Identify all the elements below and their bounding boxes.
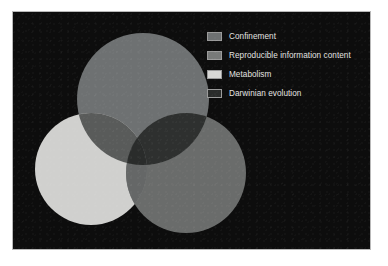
legend-swatch-confinement	[207, 32, 222, 41]
figure-panel: Confinement Reproducible information con…	[12, 11, 371, 250]
legend-item-confinement: Confinement	[207, 27, 371, 46]
legend-label-metabolism: Metabolism	[229, 70, 271, 79]
legend-label-confinement: Confinement	[229, 32, 276, 41]
legend-item-metabolism: Metabolism	[207, 65, 371, 84]
legend-swatch-reproducible-information-content	[207, 51, 222, 60]
legend-swatch-darwinian-evolution	[207, 89, 222, 98]
venn-diagram-figure: Confinement Reproducible information con…	[0, 0, 388, 266]
legend: Confinement Reproducible information con…	[207, 27, 371, 103]
legend-swatch-metabolism	[207, 70, 222, 79]
legend-label-reproducible-information-content: Reproducible information content	[229, 51, 351, 60]
legend-item-reproducible-information-content: Reproducible information content	[207, 46, 371, 65]
legend-item-darwinian-evolution: Darwinian evolution	[207, 84, 371, 103]
legend-label-darwinian-evolution: Darwinian evolution	[229, 89, 301, 98]
